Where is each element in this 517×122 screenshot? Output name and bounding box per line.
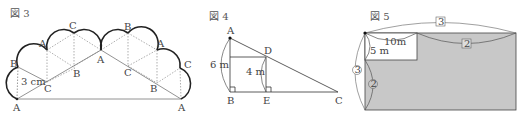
fig4-label-c: C (335, 95, 343, 106)
fig3-label-a-apex: A (96, 54, 105, 65)
figure-3: 図 3 (6, 8, 192, 113)
figure-4: 図 4 A B C D E 6 m 4 m (209, 11, 343, 106)
fig5-top-right-ratio: 2 (464, 38, 470, 49)
fig3-label-c-right: C (184, 59, 192, 70)
fig5-top-ratio: 3 (438, 16, 444, 27)
fig3-label-b-left: B (10, 58, 17, 69)
fig4-length-de: 4 m (246, 66, 266, 77)
fig4-label-b: B (227, 95, 234, 106)
fig3-label-a-1: A (38, 38, 47, 49)
figure-3-caption: 図 3 (10, 8, 30, 19)
fig3-label-b-peak: B (124, 21, 131, 32)
figure-5-caption: 図 5 (370, 11, 390, 22)
fig3-label-a-2: A (156, 38, 165, 49)
fig4-label-d: D (264, 45, 272, 56)
fig3-label-b-1: B (73, 68, 80, 79)
fig3-length-label: 3 cm (21, 76, 46, 87)
figure-4-caption: 図 4 (209, 11, 229, 22)
fig3-label-c-2: C (124, 67, 132, 78)
fig3-label-c-peak: C (69, 20, 77, 31)
fig3-label-a-base-right: A (177, 102, 186, 113)
fig3-label-a-base-left: A (12, 102, 21, 113)
fig4-length-ab: 6 m (210, 59, 230, 70)
figures-canvas: 図 3 (0, 0, 517, 122)
fig4-label-e: E (263, 95, 270, 106)
fig5-left-ratio: 3 (355, 64, 361, 75)
fig3-label-b-2: B (150, 83, 157, 94)
fig5-height-label: 5 m (370, 45, 390, 56)
figure-5: 図 5 3 2 3 2 10m 5 m (353, 11, 517, 110)
fig4-label-a: A (226, 25, 235, 36)
fig5-left-lower-ratio: 2 (371, 78, 377, 89)
